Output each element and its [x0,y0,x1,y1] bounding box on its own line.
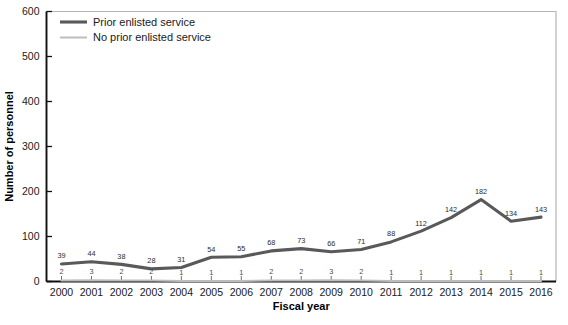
chart-container: 0100200300400500600Number of personnel20… [0,0,568,325]
y-tick-label: 200 [22,185,40,197]
series-line-prior-enlisted [61,200,541,269]
data-label-no-prior-enlisted: 2 [299,267,303,276]
data-label-no-prior-enlisted: 2 [149,267,153,276]
data-label-no-prior-enlisted: 1 [479,268,483,277]
x-tick-label: 2000 [50,286,74,298]
data-label-prior-enlisted: 182 [475,187,487,196]
data-label-prior-enlisted: 142 [445,205,457,214]
data-label-prior-enlisted: 55 [237,244,245,253]
x-tick-label: 2009 [320,286,344,298]
data-label-no-prior-enlisted: 1 [239,268,243,277]
x-tick-label: 2013 [439,286,463,298]
data-label-no-prior-enlisted: 2 [59,267,63,276]
x-tick-label: 2010 [350,286,374,298]
legend-label-no-prior-enlisted: No prior enlisted service [93,31,211,43]
data-label-no-prior-enlisted: 2 [269,267,273,276]
data-label-prior-enlisted: 73 [297,236,305,245]
data-label-no-prior-enlisted: 3 [329,267,333,276]
x-tick-label: 2015 [499,286,523,298]
x-tick-label: 2004 [170,286,194,298]
data-label-prior-enlisted: 68 [267,238,275,247]
data-label-prior-enlisted: 112 [415,219,427,228]
data-label-prior-enlisted: 38 [117,252,125,261]
data-label-prior-enlisted: 31 [177,255,185,264]
y-tick-label: 600 [22,5,40,17]
data-label-no-prior-enlisted: 1 [179,268,183,277]
y-tick-label: 500 [22,50,40,62]
legend-label-prior-enlisted: Prior enlisted service [93,16,195,28]
x-tick-label: 2008 [290,286,314,298]
data-label-prior-enlisted: 28 [147,256,155,265]
x-tick-label: 2005 [200,286,224,298]
x-tick-label: 2003 [140,286,164,298]
y-tick-label: 100 [22,230,40,242]
y-tick-label: 0 [34,275,40,287]
x-tick-label: 2011 [380,286,403,298]
series-line-no-prior-enlisted [61,280,541,281]
data-label-no-prior-enlisted: 2 [359,267,363,276]
data-label-no-prior-enlisted: 1 [389,268,393,277]
y-axis-title: Number of personnel [3,91,15,202]
y-tick-label: 400 [22,95,40,107]
x-tick-label: 2006 [230,286,254,298]
line-chart: 0100200300400500600Number of personnel20… [0,0,568,325]
y-tick-label: 300 [22,140,40,152]
data-label-no-prior-enlisted: 1 [509,268,513,277]
data-label-no-prior-enlisted: 1 [419,268,423,277]
data-label-no-prior-enlisted: 2 [119,267,123,276]
data-label-prior-enlisted: 143 [535,205,547,214]
x-tick-label: 2007 [260,286,284,298]
data-label-prior-enlisted: 71 [357,237,365,246]
data-label-prior-enlisted: 66 [327,239,335,248]
x-tick-label: 2001 [80,286,104,298]
data-label-no-prior-enlisted: 1 [539,268,543,277]
x-tick-label: 2016 [529,286,553,298]
x-tick-label: 2014 [469,286,493,298]
data-label-prior-enlisted: 39 [57,251,65,260]
x-tick-label: 2012 [409,286,433,298]
x-axis-title: Fiscal year [273,300,331,312]
x-tick-label: 2002 [110,286,134,298]
data-label-no-prior-enlisted: 1 [449,268,453,277]
data-label-no-prior-enlisted: 1 [209,268,213,277]
data-label-prior-enlisted: 54 [207,245,215,254]
data-label-no-prior-enlisted: 3 [89,267,93,276]
data-label-prior-enlisted: 44 [87,249,95,258]
data-label-prior-enlisted: 134 [505,209,517,218]
data-label-prior-enlisted: 88 [387,229,395,238]
